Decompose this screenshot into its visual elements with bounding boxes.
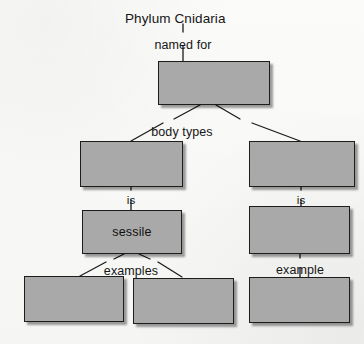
polyp-box[interactable] bbox=[80, 141, 183, 187]
link-is-left: is bbox=[127, 195, 136, 207]
medusa-box[interactable] bbox=[249, 141, 355, 187]
link-body-types: body types bbox=[151, 126, 212, 139]
motile-box[interactable] bbox=[249, 206, 350, 254]
connector-examples-to-box1 bbox=[80, 262, 106, 276]
connector-sessile-to-examples-right bbox=[139, 254, 150, 259]
root-box[interactable] bbox=[158, 61, 270, 105]
example-box-1[interactable] bbox=[24, 276, 124, 322]
example-box-2[interactable] bbox=[133, 278, 234, 324]
sessile-box[interactable]: sessile bbox=[82, 210, 182, 254]
map-title: Phylum Cnidaria bbox=[125, 12, 226, 26]
link-named-for: named for bbox=[154, 39, 211, 52]
example-box-3[interactable] bbox=[249, 277, 350, 323]
sessile-box-label: sessile bbox=[112, 226, 151, 239]
connector-bodytypes-to-medusa bbox=[252, 123, 300, 141]
link-is-right: is bbox=[297, 195, 306, 207]
connector-root-to-bodytypes-left bbox=[174, 105, 200, 119]
connector-root-to-bodytypes-right bbox=[216, 105, 240, 119]
link-example: example bbox=[276, 264, 324, 277]
concept-map-worksheet: Phylum Cnidaria named forbody typesisise… bbox=[0, 0, 364, 344]
connector-sessile-to-examples-left bbox=[114, 254, 124, 259]
connector-examples-to-box2 bbox=[158, 262, 182, 277]
